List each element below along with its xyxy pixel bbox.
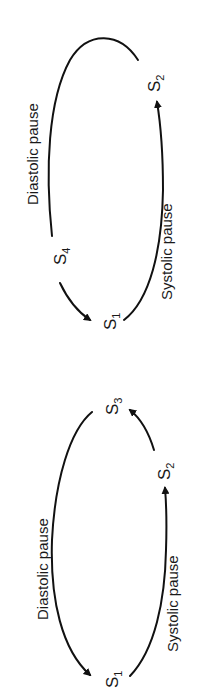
top-s2-label: S2 [145, 75, 166, 92]
heart-sounds-diagram: Diastolic pause Systolic pause S2 S4 S1 … [0, 0, 209, 697]
top-s4-label: S4 [51, 248, 72, 265]
bottom-cycle-diagram: Diastolic pause Systolic pause S3 S2 S1 [34, 398, 181, 688]
top-s4-to-s1-arrow [60, 283, 90, 320]
bottom-s2-to-s3-arrow [130, 410, 154, 450]
bottom-s1-label: S1 [103, 671, 124, 688]
top-cycle-diagram: Diastolic pause Systolic pause S2 S4 S1 [24, 38, 175, 330]
bottom-s3-label: S3 [103, 398, 124, 415]
bottom-systolic-label: Systolic pause [164, 555, 181, 652]
bottom-diastolic-label: Diastolic pause [34, 518, 51, 620]
bottom-systolic-arc [130, 488, 166, 676]
top-s1-label: S1 [101, 313, 122, 330]
top-systolic-label: Systolic pause [158, 203, 175, 300]
bottom-s2-label: S2 [155, 463, 176, 480]
bottom-diastolic-arc [52, 412, 92, 675]
top-diastolic-label: Diastolic pause [24, 103, 41, 205]
top-diastolic-arc [49, 38, 138, 236]
